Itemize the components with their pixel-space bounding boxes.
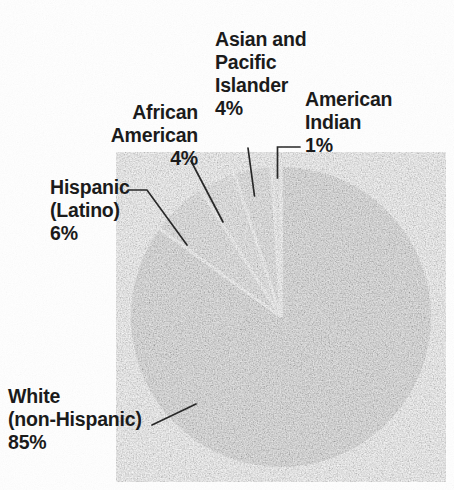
label-hispanic-value: 6% [50,222,130,245]
label-asian-line2: Pacific [215,51,306,74]
label-asian-pacific-islander: Asian and Pacific Islander 4% [215,28,306,120]
label-white-line1: White [8,385,142,408]
label-white-line2: (non-Hispanic) [8,408,142,431]
label-white-value: 85% [8,431,142,454]
label-hispanic-latino: Hispanic (Latino) 6% [50,176,130,245]
label-african-american: African American 4% [111,101,198,170]
label-american-indian-line2: Indian [305,111,392,134]
label-african-american-line2: American [111,124,198,147]
label-american-indian: American Indian 1% [305,88,392,157]
label-asian-line3: Islander [215,74,306,97]
label-hispanic-line2: (Latino) [50,199,130,222]
label-african-american-value: 4% [111,147,198,170]
label-american-indian-value: 1% [305,134,392,157]
label-american-indian-line1: American [305,88,392,111]
label-asian-value: 4% [215,97,306,120]
label-asian-line1: Asian and [215,28,306,51]
label-hispanic-line1: Hispanic [50,176,130,199]
label-white-non-hispanic: White (non-Hispanic) 85% [8,385,142,454]
pie-chart-figure: Asian and Pacific Islander 4% American I… [0,0,454,490]
label-african-american-line1: African [111,101,198,124]
